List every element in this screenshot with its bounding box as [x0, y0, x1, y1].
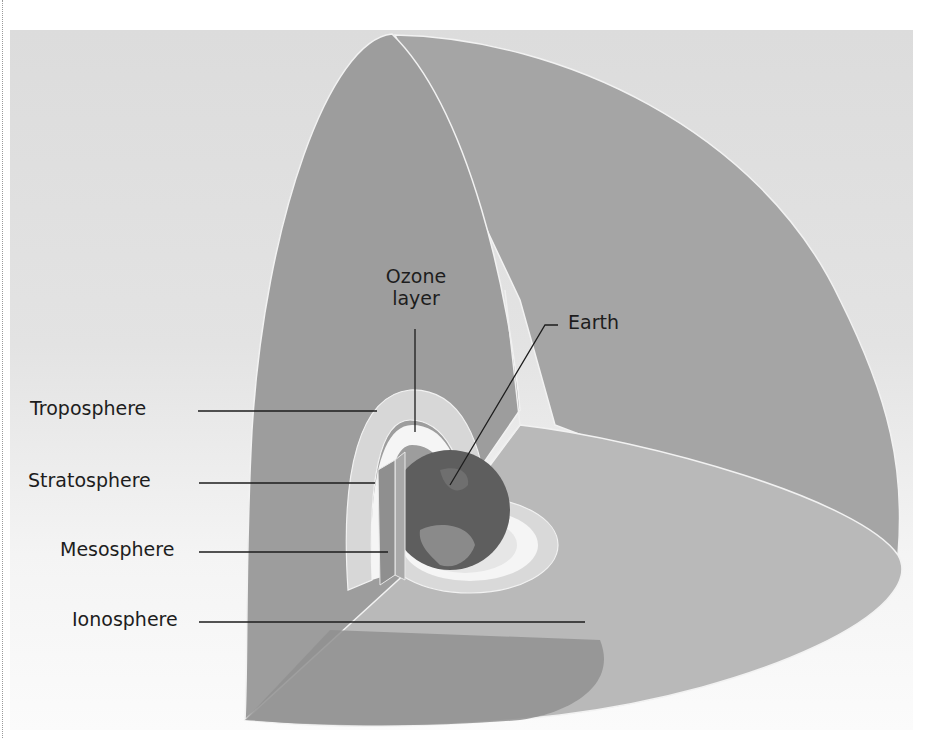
ozone-layer-label: Ozone layer	[385, 266, 447, 310]
ionosphere-label: Ionosphere	[72, 609, 178, 631]
troposphere-label: Troposphere	[30, 398, 146, 420]
earth-label: Earth	[568, 312, 619, 334]
mesosphere-label: Mesosphere	[60, 539, 174, 561]
ozone-label-line2: layer	[385, 288, 447, 310]
ozone-label-line1: Ozone	[385, 266, 447, 288]
earth-cut-face	[395, 452, 405, 580]
stratosphere-label: Stratosphere	[28, 470, 151, 492]
earth-cut-face-left	[378, 460, 395, 585]
